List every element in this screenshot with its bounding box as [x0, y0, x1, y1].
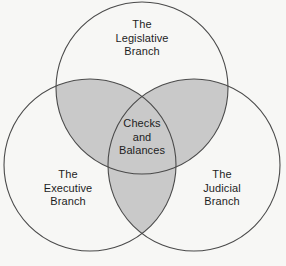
- venn-svg: [0, 0, 286, 266]
- venn-diagram: The Legislative Branch Checks and Balanc…: [0, 0, 286, 266]
